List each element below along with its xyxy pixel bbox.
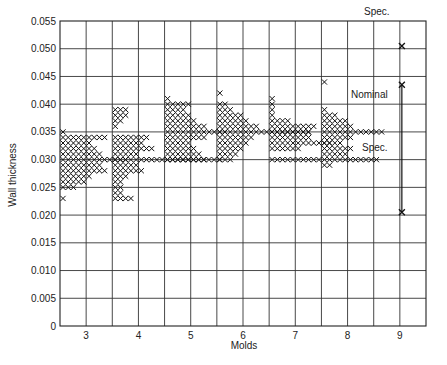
tally-x-mark xyxy=(66,140,71,145)
tally-x-mark xyxy=(118,168,123,173)
tally-x-mark xyxy=(128,140,133,145)
tally-x-mark xyxy=(233,118,238,123)
tally-x-mark xyxy=(290,146,295,151)
tally-x-mark xyxy=(196,135,201,140)
tally-x-mark xyxy=(128,146,133,151)
tally-x-mark xyxy=(92,163,97,168)
tally-x-mark xyxy=(81,179,86,184)
tally-x-mark xyxy=(217,140,222,145)
tally-x-mark xyxy=(71,146,76,151)
tally-x-mark xyxy=(76,151,81,156)
tally-x-mark xyxy=(128,196,133,201)
tally-x-mark xyxy=(217,107,222,112)
tally-x-mark xyxy=(76,146,81,151)
tally-x-mark xyxy=(86,163,91,168)
tally-x-mark xyxy=(311,140,316,145)
tally-x-mark xyxy=(238,135,243,140)
tally-x-mark xyxy=(60,135,65,140)
tally-x-mark xyxy=(186,151,191,156)
tally-x-mark xyxy=(196,151,201,156)
tally-x-mark xyxy=(228,113,233,118)
tally-x-mark xyxy=(102,135,107,140)
tally-x-mark xyxy=(243,140,248,145)
tally-x-mark xyxy=(123,140,128,145)
tally-x-mark xyxy=(113,190,118,195)
tally-x-mark xyxy=(133,168,138,173)
tally-x-mark xyxy=(222,135,227,140)
tally-x-mark xyxy=(337,146,342,151)
tally-x-mark xyxy=(92,146,97,151)
tally-x-mark xyxy=(149,146,154,151)
tally-x-mark xyxy=(337,124,342,129)
tally-x-mark xyxy=(337,151,342,156)
tally-x-mark xyxy=(165,96,170,101)
tally-x-mark xyxy=(301,135,306,140)
tally-x-mark xyxy=(118,151,123,156)
tally-x-mark xyxy=(92,151,97,156)
tally-x-mark xyxy=(296,140,301,145)
y-tick-label: 0.040 xyxy=(31,99,56,110)
tally-x-mark xyxy=(181,140,186,145)
tally-x-mark xyxy=(165,107,170,112)
tally-x-mark xyxy=(285,146,290,151)
tally-x-mark xyxy=(327,151,332,156)
tally-x-mark xyxy=(113,174,118,179)
y-axis-label: Wall thickness xyxy=(7,143,18,207)
tally-x-mark xyxy=(139,140,144,145)
tally-x-mark xyxy=(113,146,118,151)
tally-x-mark xyxy=(181,151,186,156)
tally-x-mark xyxy=(222,124,227,129)
tally-x-mark xyxy=(316,140,321,145)
y-tick-label: 0.010 xyxy=(31,265,56,276)
tally-x-mark xyxy=(332,118,337,123)
tally-x-mark xyxy=(327,146,332,151)
tally-x-mark xyxy=(301,124,306,129)
tally-x-mark xyxy=(343,146,348,151)
tally-x-mark xyxy=(123,151,128,156)
y-tick-label: 0.015 xyxy=(31,237,56,248)
y-tick-label: 0.035 xyxy=(31,126,56,137)
tally-x-mark xyxy=(60,146,65,151)
tally-x-mark xyxy=(123,146,128,151)
tally-x-mark xyxy=(222,151,227,156)
tally-x-mark xyxy=(311,124,316,129)
tally-x-mark xyxy=(233,140,238,145)
tally-x-mark xyxy=(86,135,91,140)
tally-x-mark xyxy=(332,113,337,118)
tally-x-mark xyxy=(118,179,123,184)
tally-x-mark xyxy=(343,135,348,140)
y-axis-ticks: 00.0050.0100.0150.0200.0250.0300.0350.04… xyxy=(31,16,56,332)
tally-x-mark xyxy=(332,140,337,145)
tally-x-mark xyxy=(285,124,290,129)
tally-x-mark xyxy=(285,135,290,140)
tally-x-mark xyxy=(128,135,133,140)
tally-x-mark xyxy=(76,135,81,140)
tally-x-mark xyxy=(343,124,348,129)
tally-x-mark xyxy=(128,163,133,168)
tally-x-mark xyxy=(222,113,227,118)
tally-x-mark xyxy=(60,140,65,145)
tally-x-mark xyxy=(102,168,107,173)
tally-x-mark xyxy=(133,146,138,151)
tally-x-mark xyxy=(81,140,86,145)
tally-x-mark xyxy=(322,146,327,151)
tally-x-mark xyxy=(139,168,144,173)
tally-x-mark xyxy=(217,151,222,156)
tally-x-mark xyxy=(228,135,233,140)
tally-x-mark xyxy=(118,174,123,179)
tally-x-mark xyxy=(97,151,102,156)
tally-x-mark xyxy=(165,124,170,129)
tally-x-mark xyxy=(280,146,285,151)
tally-x-mark xyxy=(306,124,311,129)
y-tick-label: 0.025 xyxy=(31,182,56,193)
tally-x-mark xyxy=(86,174,91,179)
tally-x-mark xyxy=(170,146,175,151)
tally-x-mark xyxy=(123,113,128,118)
tally-x-mark xyxy=(165,113,170,118)
tally-x-mark xyxy=(97,168,102,173)
tally-x-mark xyxy=(170,124,175,129)
tally-x-mark xyxy=(332,124,337,129)
tally-x-mark xyxy=(76,168,81,173)
tally-x-mark xyxy=(217,124,222,129)
tally-x-mark xyxy=(113,151,118,156)
